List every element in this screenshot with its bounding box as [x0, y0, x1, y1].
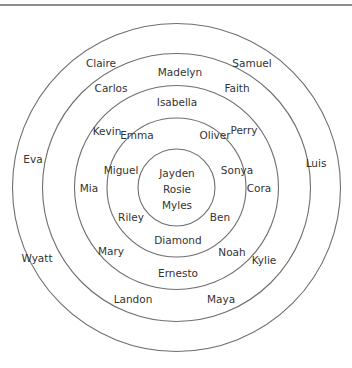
name-label-mia: Mia — [80, 182, 98, 194]
name-label-jayden: Jayden — [158, 167, 195, 179]
name-label-kevin: Kevin — [93, 125, 122, 137]
name-label-perry: Perry — [230, 124, 257, 136]
name-label-riley: Riley — [118, 211, 144, 223]
name-label-diamond: Diamond — [154, 234, 201, 246]
name-label-luis: Luis — [306, 157, 327, 169]
name-label-oliver: Oliver — [199, 129, 231, 141]
name-label-kylie: Kylie — [252, 254, 277, 266]
name-label-emma: Emma — [120, 129, 154, 141]
name-label-myles: Myles — [162, 199, 192, 211]
name-label-sonya: Sonya — [221, 164, 253, 176]
name-label-isabella: Isabella — [157, 96, 197, 108]
name-label-rosie: Rosie — [163, 183, 191, 195]
concentric-circle-diagram: ClaireMadelynSamuelCarlosFaithIsabellaKe… — [0, 0, 352, 368]
name-label-claire: Claire — [86, 57, 116, 69]
name-label-samuel: Samuel — [232, 57, 271, 69]
name-label-landon: Landon — [114, 293, 153, 305]
name-label-maya: Maya — [207, 293, 235, 305]
name-label-faith: Faith — [224, 82, 249, 94]
name-label-cora: Cora — [247, 182, 272, 194]
name-label-ernesto: Ernesto — [158, 267, 198, 279]
name-label-miguel: Miguel — [104, 164, 139, 176]
name-label-ben: Ben — [210, 211, 230, 223]
name-label-eva: Eva — [23, 153, 42, 165]
name-label-wyatt: Wyatt — [21, 252, 52, 264]
name-label-mary: Mary — [98, 245, 124, 257]
name-label-carlos: Carlos — [95, 82, 128, 94]
name-label-madelyn: Madelyn — [158, 66, 202, 78]
labels-group: ClaireMadelynSamuelCarlosFaithIsabellaKe… — [21, 57, 326, 305]
name-label-noah: Noah — [218, 246, 245, 258]
